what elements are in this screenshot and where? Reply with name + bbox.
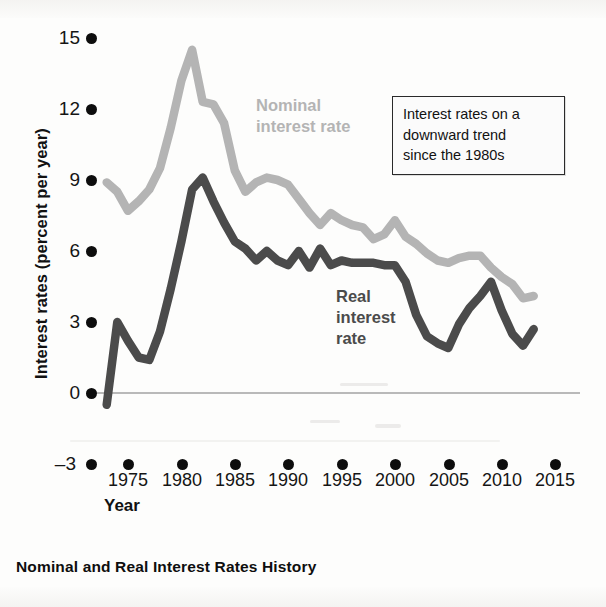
x-tick-label-1990: 1990 [260,470,316,491]
y-tick-dot-3 [86,317,97,328]
y-tick-label-neg3: –3 [30,453,76,475]
x-tick-label-1980: 1980 [154,470,210,491]
x-tick-label-2005: 2005 [421,470,477,491]
x-axis-label: Year [104,496,140,516]
series-label-real: Real interest rate [336,286,396,349]
x-tick-dot-1995 [337,459,348,470]
x-tick-dot-2000 [390,459,401,470]
plot-canvas [0,0,606,607]
y-tick-dot-9 [86,175,97,186]
y-tick-label-12: 12 [34,98,80,120]
x-tick-label-1975: 1975 [100,470,156,491]
y-tick-label-6: 6 [34,240,80,262]
x-tick-dot-2015 [550,459,561,470]
series-label-real-line2: interest [336,307,396,328]
y-tick-label-9: 9 [34,169,80,191]
x-tick-label-2000: 2000 [367,470,423,491]
y-tick-label-0: 0 [34,382,80,404]
annotation-line2: downward trend [403,125,555,146]
series-line-real [107,178,534,405]
y-tick-dot-neg3 [86,459,97,470]
series-label-real-line1: Real [336,286,396,307]
x-tick-label-1995: 1995 [314,470,370,491]
y-tick-dot-0 [86,388,97,399]
x-tick-dot-1985 [230,459,241,470]
x-tick-dot-2005 [444,459,455,470]
x-tick-dot-1975 [123,459,134,470]
y-tick-dot-12 [86,104,97,115]
y-tick-label-3: 3 [34,311,80,333]
x-tick-label-2015: 2015 [527,470,583,491]
x-tick-dot-1980 [177,459,188,470]
y-tick-dot-15 [86,33,97,44]
figure-caption: Nominal and Real Interest Rates History [16,558,316,576]
figure-interest-rates: Interest rates (percent per year) 15 12 … [0,0,606,607]
y-tick-dot-6 [86,246,97,257]
x-tick-label-1985: 1985 [207,470,263,491]
x-tick-dot-2010 [497,459,508,470]
x-tick-label-2010: 2010 [474,470,530,491]
series-label-nominal-line2: interest rate [256,116,350,137]
y-tick-label-15: 15 [34,27,80,49]
annotation-line1: Interest rates on a [403,104,555,125]
annotation-box: Interest rates on a downward trend since… [392,96,565,175]
series-label-real-line3: rate [336,328,396,349]
series-label-nominal: Nominal interest rate [256,95,350,137]
x-tick-dot-1990 [283,459,294,470]
series-label-nominal-line1: Nominal [256,95,350,116]
annotation-line3: since the 1980s [403,145,555,166]
